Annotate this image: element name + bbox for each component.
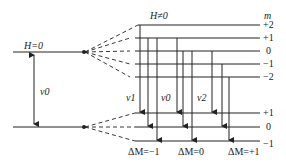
nu0-label: ν0 bbox=[161, 93, 170, 103]
lower-level-label: 0 bbox=[266, 122, 271, 132]
delta-m-label: ΔM=−1 bbox=[128, 147, 160, 157]
nu0-left-label: ν0 bbox=[40, 87, 49, 97]
transitions bbox=[140, 25, 229, 140]
upper-level-label: −1 bbox=[263, 59, 274, 69]
field-off-label: H=0 bbox=[24, 41, 43, 51]
delta-m-label: ΔM=+1 bbox=[228, 147, 260, 157]
upper-split-levels bbox=[135, 25, 260, 77]
upper-level-label: +2 bbox=[263, 20, 274, 30]
nu1-label: ν1 bbox=[126, 93, 135, 103]
lower-level-label: −1 bbox=[263, 139, 274, 149]
nu2-label: ν2 bbox=[197, 93, 206, 103]
zeeman-diagram bbox=[0, 0, 286, 164]
delta-m-label: ΔM=0 bbox=[178, 147, 204, 157]
upper-level-label: +1 bbox=[263, 33, 274, 43]
upper-level-label: 0 bbox=[266, 46, 271, 56]
upper-level-label: −2 bbox=[263, 72, 274, 82]
upper-fan-dashed bbox=[85, 25, 138, 77]
lower-level-label: +1 bbox=[263, 108, 274, 118]
field-on-label: H≠0 bbox=[150, 11, 168, 21]
lower-split-levels bbox=[135, 113, 260, 141]
lower-fan-dashed bbox=[85, 113, 135, 141]
